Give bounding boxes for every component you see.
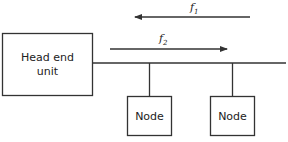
f2-label: f2 bbox=[158, 32, 168, 47]
node-1-label: Node bbox=[135, 110, 164, 123]
node-1: Node bbox=[128, 63, 172, 136]
network-diagram: f1 f2 Head end unit Node Node bbox=[0, 0, 288, 142]
head-end-unit-label-line2: unit bbox=[37, 65, 59, 78]
f1-arrow: f1 bbox=[135, 1, 250, 17]
head-end-unit: Head end unit bbox=[3, 34, 93, 96]
head-end-unit-label-line1: Head end bbox=[21, 51, 74, 64]
node-2: Node bbox=[211, 63, 255, 136]
f1-label: f1 bbox=[189, 1, 199, 16]
f2-arrow: f2 bbox=[110, 32, 227, 49]
node-2-label: Node bbox=[218, 110, 247, 123]
